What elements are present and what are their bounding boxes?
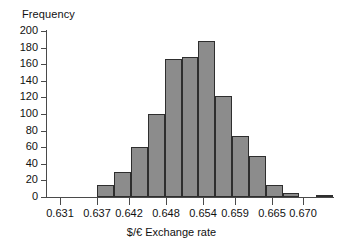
histogram-bar <box>316 195 333 197</box>
histogram-bar <box>97 185 114 197</box>
y-axis-tick-label: 160 <box>0 58 38 69</box>
histogram-bar <box>182 57 199 197</box>
histogram-bar <box>114 172 131 197</box>
y-axis-tick-label: 40 <box>0 158 38 169</box>
x-axis-tick <box>303 198 304 205</box>
y-axis-tick-label: 180 <box>0 42 38 53</box>
y-axis-tick-label: 120 <box>0 91 38 102</box>
y-axis-tick-label: 200 <box>0 25 38 36</box>
y-axis-tick-label: 80 <box>0 125 38 136</box>
x-axis-line <box>46 197 334 198</box>
histogram-bar <box>131 147 148 197</box>
x-axis-tick <box>166 198 167 205</box>
histogram-bar <box>165 59 182 197</box>
histogram-bar <box>266 185 283 197</box>
x-axis-tick <box>203 198 204 205</box>
plot-area <box>47 31 333 197</box>
histogram-bar <box>283 193 300 197</box>
y-axis-tick <box>41 197 47 198</box>
x-axis-tick-label: 0.670 <box>273 207 333 219</box>
y-axis-tick-label: 60 <box>0 141 38 152</box>
x-axis-tick <box>60 198 61 205</box>
x-axis-tick <box>235 198 236 205</box>
x-axis-title: $/€ Exchange rate <box>0 226 343 238</box>
x-axis-tick <box>129 198 130 205</box>
y-axis-tick-label: 100 <box>0 108 38 119</box>
y-axis-tick-label: 140 <box>0 75 38 86</box>
histogram-bar <box>148 114 165 197</box>
x-axis-tick <box>272 198 273 205</box>
x-axis-tick <box>97 198 98 205</box>
histogram-bar <box>198 41 215 197</box>
histogram-bar <box>232 136 249 197</box>
y-axis-tick-label: 0 <box>0 191 38 202</box>
histogram-chart: Frequency 020406080100120140160180200 0.… <box>0 0 343 248</box>
y-axis-tick-label: 20 <box>0 174 38 185</box>
histogram-bar <box>249 156 266 197</box>
y-axis-title: Frequency <box>22 8 75 20</box>
histogram-bar <box>215 96 232 197</box>
